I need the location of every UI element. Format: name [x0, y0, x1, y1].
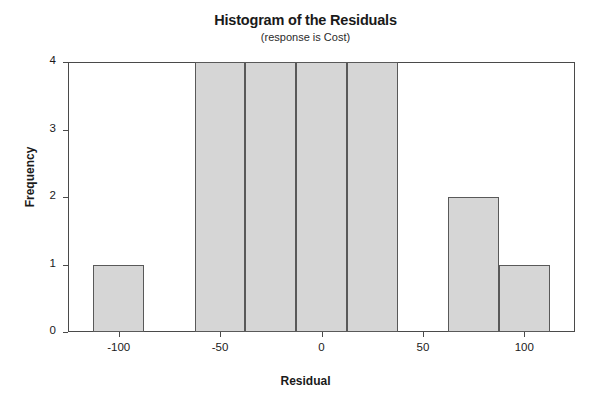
x-tick-label: 100	[494, 341, 554, 353]
x-tick-mark	[322, 332, 323, 337]
x-tick-mark	[220, 332, 221, 337]
y-tick-label: 0	[30, 324, 56, 336]
histogram-figure: Histogram of the Residuals (response is …	[0, 0, 611, 404]
histogram-bar	[448, 197, 499, 332]
plot-area	[68, 62, 575, 332]
y-tick-mark	[63, 332, 68, 333]
y-tick-mark	[63, 62, 68, 63]
x-tick-mark	[119, 332, 120, 337]
x-tick-label: 50	[393, 341, 453, 353]
y-tick-mark	[63, 197, 68, 198]
histogram-bar	[499, 265, 550, 333]
histogram-bar	[93, 265, 144, 333]
histogram-bar	[245, 62, 296, 332]
x-tick-label: -100	[89, 341, 149, 353]
x-tick-label: -50	[190, 341, 250, 353]
y-tick-mark	[63, 130, 68, 131]
chart-subtitle: (response is Cost)	[0, 31, 611, 43]
histogram-bar	[347, 62, 398, 332]
x-tick-mark	[524, 332, 525, 337]
x-tick-label: 0	[292, 341, 352, 353]
x-axis-label: Residual	[0, 374, 611, 388]
chart-title: Histogram of the Residuals	[0, 12, 611, 28]
y-tick-mark	[63, 265, 68, 266]
y-tick-label: 1	[30, 257, 56, 269]
histogram-bar	[296, 62, 347, 332]
x-tick-mark	[423, 332, 424, 337]
y-axis-label: Frequency	[23, 117, 37, 237]
histogram-bar	[195, 62, 246, 332]
y-tick-label: 4	[30, 54, 56, 66]
